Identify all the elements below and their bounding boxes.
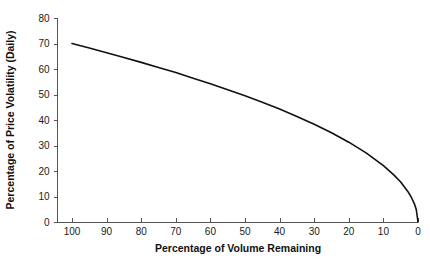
y-tick-label: 70 [38,38,50,49]
y-tick-label: 60 [38,64,50,75]
x-tick-label: 100 [64,226,81,237]
x-tick-label: 90 [101,226,113,237]
x-tick-label: 10 [378,226,390,237]
x-tick-label: 50 [239,226,251,237]
x-tick-label: 30 [309,226,321,237]
chart-figure: 80706050403020100 1009080706050403020100… [0,0,430,267]
x-tick-label: 60 [205,226,217,237]
x-tick-label: 20 [343,226,355,237]
x-tick-label: 70 [170,226,182,237]
y-axis-ticks: 80706050403020100 [38,13,57,228]
x-axis-title: Percentage of Volume Remaining [155,242,321,254]
y-tick-label: 20 [38,166,50,177]
x-tick-label: 40 [274,226,286,237]
y-axis-title: Percentage of Price Volatility (Daily) [4,31,16,210]
y-tick-label: 40 [38,115,50,126]
y-tick-label: 30 [38,140,50,151]
y-tick-label: 0 [44,217,50,228]
x-tick-label: 80 [136,226,148,237]
y-tick-label: 10 [38,191,50,202]
y-tick-label: 80 [38,13,50,24]
x-axis-ticks: 1009080706050403020100 [64,218,422,237]
data-series-curve [72,44,418,223]
x-tick-label: 0 [415,226,421,237]
plot-area: 80706050403020100 1009080706050403020100… [0,0,430,267]
y-tick-label: 50 [38,89,50,100]
